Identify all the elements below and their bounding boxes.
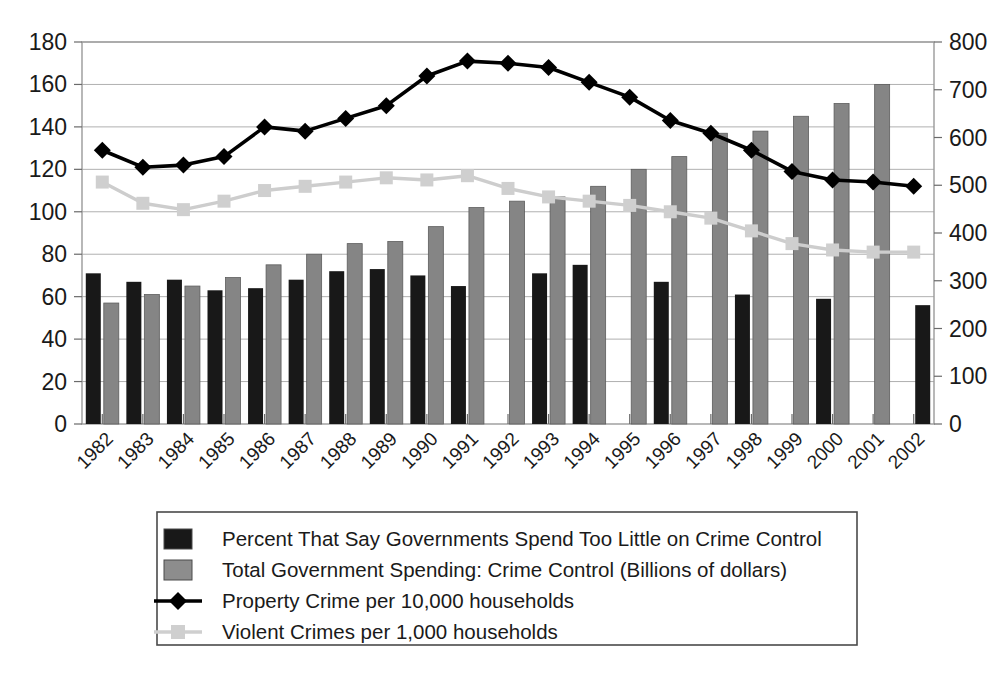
- bar-percent: [248, 288, 263, 424]
- bar-spending: [185, 286, 200, 424]
- data-point-marker: [299, 180, 312, 193]
- y-axis-tick-label: 140: [29, 114, 67, 140]
- y-axis-tick-label: 100: [29, 199, 67, 225]
- right-axis-labels: 0100200300400500600700800: [949, 29, 987, 437]
- y-axis-tick-label: 20: [41, 369, 67, 395]
- y-axis-right-tick-label: 200: [949, 316, 987, 342]
- data-point-marker: [867, 246, 880, 259]
- data-point-marker: [136, 197, 149, 210]
- bar-percent: [86, 273, 101, 424]
- legend-swatch: [164, 529, 192, 549]
- bar-percent: [915, 305, 930, 424]
- bar-spending: [753, 131, 768, 424]
- data-point-marker: [907, 246, 920, 259]
- bar-percent: [167, 280, 182, 424]
- y-axis-right-tick-label: 700: [949, 77, 987, 103]
- bar-spending: [347, 244, 362, 424]
- bar-spending: [104, 303, 119, 424]
- y-axis-tick-label: 40: [41, 326, 67, 352]
- y-axis-tick-label: 0: [54, 411, 67, 437]
- legend-swatch: [164, 560, 192, 580]
- y-axis-right-tick-label: 0: [949, 411, 962, 437]
- bar-spending: [226, 278, 241, 424]
- bar-percent: [126, 282, 141, 424]
- bar-percent: [654, 282, 669, 424]
- bar-percent: [735, 295, 750, 424]
- bar-percent: [410, 275, 425, 424]
- bar-spending: [388, 241, 403, 424]
- data-point-marker: [826, 243, 839, 256]
- y-axis-right-tick-label: 400: [949, 220, 987, 246]
- crime-statistics-chart: 020406080100120140160180 010020030040050…: [0, 0, 1004, 686]
- y-axis-tick-label: 120: [29, 156, 67, 182]
- y-axis-right-tick-label: 300: [949, 268, 987, 294]
- y-axis-right-tick-label: 100: [949, 363, 987, 389]
- data-point-marker: [258, 184, 271, 197]
- bar-percent: [208, 290, 223, 424]
- data-point-marker: [461, 169, 474, 182]
- bar-spending: [794, 116, 809, 424]
- bar-spending: [672, 157, 687, 424]
- bar-percent: [370, 269, 385, 424]
- bar-percent: [451, 286, 466, 424]
- bar-percent: [329, 271, 344, 424]
- y-axis-tick-label: 180: [29, 29, 67, 55]
- data-point-marker: [583, 195, 596, 208]
- legend-item: Total Government Spending: Crime Control…: [164, 558, 787, 581]
- bar-spending: [834, 104, 849, 424]
- legend-square-marker: [171, 625, 185, 639]
- y-axis-tick-label: 160: [29, 71, 67, 97]
- legend: Percent That Say Governments Spend Too L…: [154, 512, 857, 645]
- bar-spending: [469, 208, 484, 424]
- y-axis-tick-label: 80: [41, 241, 67, 267]
- y-axis-right-tick-label: 800: [949, 29, 987, 55]
- bar-percent: [532, 273, 547, 424]
- data-point-marker: [664, 205, 677, 218]
- data-point-marker: [786, 237, 799, 250]
- data-point-marker: [542, 190, 555, 203]
- data-point-marker: [745, 224, 758, 237]
- legend-label: Violent Crimes per 1,000 households: [222, 620, 558, 643]
- legend-label: Percent That Say Governments Spend Too L…: [222, 527, 822, 550]
- data-point-marker: [380, 171, 393, 184]
- data-point-marker: [96, 176, 109, 189]
- y-axis-right-tick-label: 500: [949, 172, 987, 198]
- x-axis-tickmarks: [102, 414, 913, 424]
- data-point-marker: [420, 173, 433, 186]
- bar-percent: [573, 265, 588, 424]
- legend-label: Property Crime per 10,000 households: [222, 589, 574, 612]
- bar-percent: [816, 299, 831, 424]
- bar-spending: [266, 265, 281, 424]
- y-axis-tick-label: 60: [41, 284, 67, 310]
- bar-spending: [144, 295, 159, 424]
- data-point-marker: [704, 212, 717, 225]
- data-point-marker: [339, 176, 352, 189]
- bar-spending: [307, 254, 322, 424]
- legend-label: Total Government Spending: Crime Control…: [222, 558, 787, 581]
- data-point-marker: [177, 203, 190, 216]
- bar-spending: [712, 133, 727, 424]
- bar-spending: [591, 186, 606, 424]
- legend-item: Percent That Say Governments Spend Too L…: [164, 527, 822, 550]
- data-point-marker: [502, 182, 515, 195]
- bar-percent: [289, 280, 304, 424]
- data-point-marker: [218, 195, 231, 208]
- data-point-marker: [623, 199, 636, 212]
- bar-spending: [510, 201, 525, 424]
- bar-spending: [550, 197, 565, 424]
- y-axis-right-tick-label: 600: [949, 125, 987, 151]
- bar-spending: [428, 227, 443, 424]
